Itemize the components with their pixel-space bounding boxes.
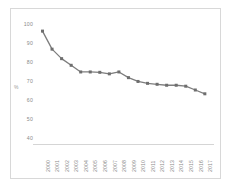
plot-area	[0, 0, 231, 187]
data-point-marker	[108, 72, 111, 75]
data-point-marker	[127, 76, 130, 79]
data-point-marker	[175, 84, 178, 87]
data-point-marker	[70, 64, 73, 67]
data-point-marker	[203, 92, 206, 95]
data-point-marker	[79, 70, 82, 73]
data-point-marker	[98, 71, 101, 74]
data-point-marker	[165, 84, 168, 87]
line-chart: % 100908070605040 2000200120022003200420…	[0, 0, 231, 187]
data-point-marker	[117, 70, 120, 73]
data-point-marker	[51, 48, 54, 51]
data-series-line	[43, 31, 205, 94]
data-point-marker	[60, 57, 63, 60]
data-point-marker	[184, 85, 187, 88]
data-point-marker	[146, 82, 149, 85]
data-point-marker	[89, 70, 92, 73]
data-point-marker	[41, 30, 44, 33]
data-point-marker	[137, 80, 140, 83]
data-point-marker	[194, 89, 197, 92]
data-point-marker	[156, 83, 159, 86]
